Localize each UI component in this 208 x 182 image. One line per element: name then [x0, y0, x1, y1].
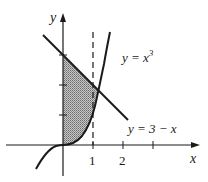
- x-tick-label-2: 2: [119, 153, 126, 168]
- label-cubic: y = x3: [120, 48, 154, 65]
- label-line: y = 3 − x: [126, 121, 177, 136]
- x-axis-label: x: [189, 151, 197, 166]
- graph-canvas: y x 1 2 y = x3 y = 3 − x: [0, 0, 208, 182]
- x-tick-label-1: 1: [89, 153, 96, 168]
- x-axis-arrow-icon: [191, 142, 200, 148]
- shaded-region: [63, 55, 98, 145]
- y-axis-label: y: [48, 10, 57, 25]
- y-axis-arrow-icon: [60, 13, 66, 22]
